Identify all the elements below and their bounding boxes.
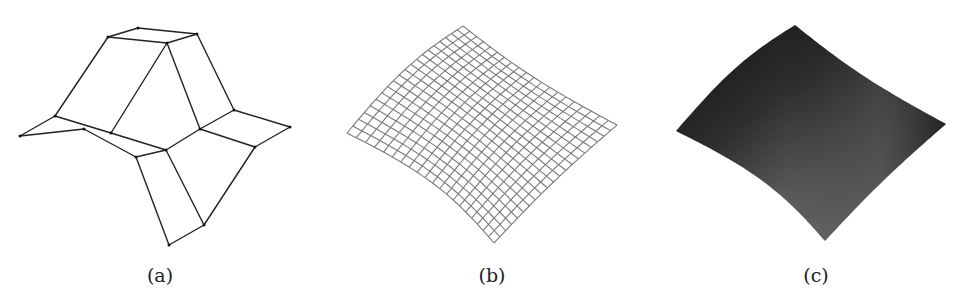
control-net-edge: [167, 43, 200, 129]
control-net-edge: [108, 28, 138, 37]
control-net-edge: [197, 34, 234, 110]
control-net-edge: [166, 129, 200, 150]
control-net-edge: [167, 34, 197, 43]
control-net-edge: [136, 150, 166, 157]
mesh-line: [447, 87, 550, 194]
control-point: [135, 156, 138, 159]
control-point: [19, 135, 22, 138]
control-net-edge: [108, 37, 167, 43]
control-point: [110, 132, 113, 135]
mesh-line: [466, 102, 575, 212]
control-point: [203, 224, 206, 227]
control-net-edge: [111, 43, 167, 133]
shaded-surface-highlight: [676, 25, 946, 241]
mesh-line: [382, 93, 530, 206]
control-net-edge: [200, 110, 234, 129]
control-net-edge: [136, 157, 169, 245]
mesh-line: [417, 68, 519, 173]
control-net-edge: [255, 127, 290, 147]
panel-c-shaded-surface: [676, 25, 946, 241]
mesh-line: [472, 106, 583, 218]
figure: (a) (b) (c): [0, 0, 962, 301]
control-point: [137, 27, 140, 30]
control-point: [168, 244, 171, 247]
mesh-line: [409, 62, 512, 167]
control-point: [233, 109, 236, 112]
figure-canvas: [0, 0, 962, 301]
control-point: [289, 126, 292, 129]
control-point: [107, 36, 110, 39]
control-net-edge: [200, 129, 255, 147]
panel-a-control-net: [19, 27, 292, 247]
control-net-edge: [204, 147, 255, 225]
control-point: [54, 115, 57, 118]
control-point: [196, 33, 199, 36]
mesh-line: [451, 34, 604, 137]
mesh-line: [392, 52, 497, 157]
control-point: [254, 146, 257, 149]
mesh-line: [393, 81, 541, 194]
control-net-edge: [55, 116, 111, 133]
control-net-edge: [234, 110, 290, 127]
control-point: [83, 128, 86, 131]
caption-c: (c): [803, 264, 828, 286]
mesh-line: [401, 57, 505, 162]
mesh-line: [376, 99, 523, 212]
control-net-edge: [166, 150, 204, 225]
control-point: [166, 42, 169, 45]
control-net-edge: [138, 28, 197, 34]
mesh-line: [425, 73, 526, 178]
caption-a: (a): [147, 264, 173, 286]
control-point: [199, 128, 202, 131]
control-net-edge: [55, 37, 108, 116]
panel-b-mesh: [347, 26, 617, 243]
control-point: [165, 149, 168, 152]
caption-b: (b): [479, 264, 506, 286]
control-net-edge: [169, 225, 204, 245]
